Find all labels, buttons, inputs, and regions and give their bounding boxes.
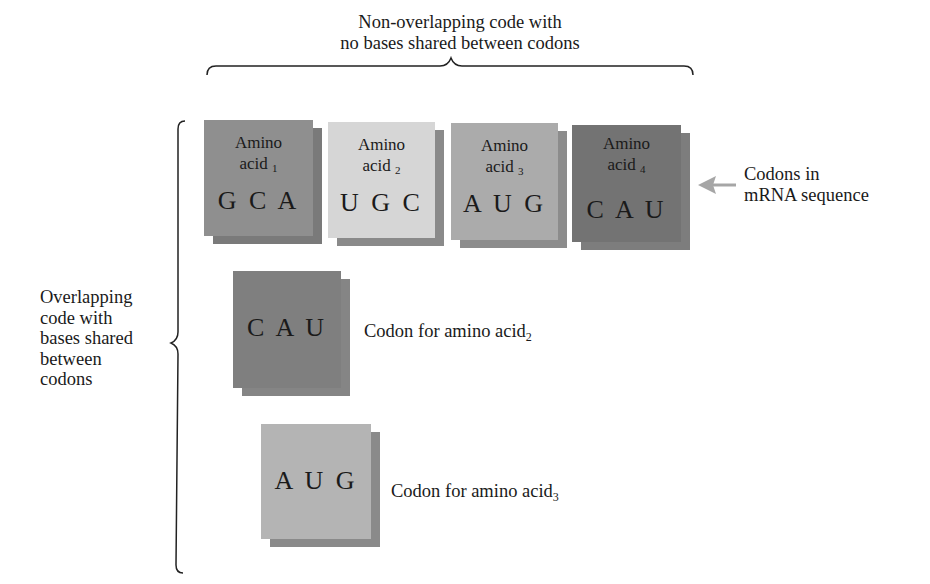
- acid-index: 2: [395, 164, 401, 176]
- overlap-desc-index: 2: [526, 330, 532, 344]
- overlap-desc-1: Codon for amino acid2: [364, 321, 532, 345]
- codon-box-face: Amino acid 1 G C A: [204, 120, 313, 236]
- codon-box-2: Amino acid 2 U G C: [328, 122, 435, 238]
- overlapping-label: Overlapping code with bases shared betwe…: [40, 287, 133, 390]
- acid-word: acid 4: [572, 154, 681, 180]
- acid-text: acid: [485, 157, 513, 176]
- codons-in-mrna-label-line2: mRNA sequence: [744, 185, 869, 206]
- overlap-desc-text: Codon for amino acid: [391, 481, 553, 501]
- acid-word: acid 2: [328, 155, 435, 181]
- amino-acid-label: Amino acid 4: [572, 133, 681, 180]
- overlap-desc-index: 3: [553, 490, 559, 504]
- codon-letters: C A U: [572, 195, 681, 225]
- amino-word: Amino: [328, 134, 435, 155]
- overlapping-label-line: between: [40, 349, 133, 370]
- codon-box-face: Amino acid 3 A U G: [451, 123, 558, 240]
- top-brace-icon: [207, 58, 693, 75]
- codon-letters: G C A: [204, 186, 313, 216]
- overlap-desc-2: Codon for amino acid3: [391, 481, 559, 505]
- codon-box-face: Amino acid 2 U G C: [328, 122, 435, 238]
- overlapping-label-line: bases shared: [40, 328, 133, 349]
- codon-letters: U G C: [328, 188, 435, 218]
- codons-in-mrna-label: Codons in mRNA sequence: [744, 164, 869, 206]
- codon-box-3: Amino acid 3 A U G: [451, 123, 558, 240]
- overlapping-label-line: code with: [40, 308, 133, 329]
- codon-box-4: Amino acid 4 C A U: [572, 125, 681, 242]
- amino-acid-label: Amino acid 2: [328, 134, 435, 181]
- amino-word: Amino: [451, 135, 558, 156]
- non-overlapping-label-line1: Non-overlapping code with: [300, 12, 620, 33]
- amino-acid-label: Amino acid 1: [204, 132, 313, 179]
- overlap-codon-box-1: C A U: [233, 271, 341, 388]
- amino-acid-label: Amino acid 3: [451, 135, 558, 182]
- amino-word: Amino: [204, 132, 313, 153]
- overlap-desc-text: Codon for amino acid: [364, 321, 526, 341]
- left-brace-icon: [171, 121, 185, 573]
- codon-box-face: Amino acid 4 C A U: [572, 125, 681, 242]
- non-overlapping-label-line2: no bases shared between codons: [300, 33, 620, 54]
- codon-letters: A U G: [451, 189, 558, 219]
- non-overlapping-label: Non-overlapping code with no bases share…: [300, 12, 620, 54]
- overlapping-label-line: Overlapping: [40, 287, 133, 308]
- overlapping-label-line: codons: [40, 369, 133, 390]
- acid-index: 3: [518, 165, 524, 177]
- codons-in-mrna-label-line1: Codons in: [744, 164, 869, 185]
- codon-box-face: C A U: [233, 271, 341, 388]
- codon-letters: C A U: [233, 313, 341, 343]
- acid-word: acid 1: [204, 153, 313, 179]
- acid-text: acid: [607, 155, 635, 174]
- arrow-left-icon: [698, 176, 736, 194]
- acid-text: acid: [362, 156, 390, 175]
- codon-letters: A U G: [261, 466, 371, 496]
- codon-box-1: Amino acid 1 G C A: [204, 120, 313, 236]
- codon-box-face: A U G: [261, 424, 371, 539]
- overlap-codon-box-2: A U G: [261, 424, 371, 539]
- acid-word: acid 3: [451, 156, 558, 182]
- acid-index: 1: [272, 162, 278, 174]
- acid-index: 4: [640, 163, 646, 175]
- amino-word: Amino: [572, 133, 681, 154]
- acid-text: acid: [239, 154, 267, 173]
